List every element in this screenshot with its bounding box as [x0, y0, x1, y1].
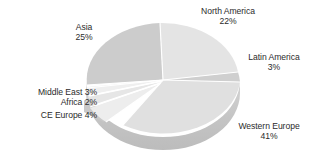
slice-label-north-america-name: North America	[182, 6, 274, 16]
slice-label-middle-east: Middle East 3%	[0, 87, 97, 97]
slice-label-latin-america: Latin America 3%	[238, 52, 310, 72]
slice-label-ce-europe-text: CE Europe 4%	[0, 110, 97, 120]
slice-label-latin-america-name: Latin America	[238, 52, 310, 62]
slice-label-africa-text: Africa 2%	[0, 97, 97, 107]
pie-chart-figure: North America 22% Latin America 3% Weste…	[0, 0, 311, 157]
slice-label-western-europe-value: 41%	[228, 131, 310, 141]
slice-label-asia-name: Asia	[58, 22, 110, 32]
slice-label-latin-america-value: 3%	[238, 62, 310, 72]
slice-label-africa: Africa 2%	[0, 97, 97, 107]
slice-label-western-europe: Western Europe 41%	[228, 121, 310, 141]
slice-label-asia: Asia 25%	[58, 22, 110, 42]
slice-label-ce-europe: CE Europe 4%	[0, 110, 97, 120]
slice-label-middle-east-text: Middle East 3%	[0, 87, 97, 97]
slice-label-asia-value: 25%	[58, 32, 110, 42]
slice-north-america	[160, 23, 238, 80]
slice-label-north-america-value: 22%	[182, 16, 274, 26]
slice-label-western-europe-name: Western Europe	[228, 121, 310, 131]
slice-label-north-america: North America 22%	[182, 6, 274, 26]
